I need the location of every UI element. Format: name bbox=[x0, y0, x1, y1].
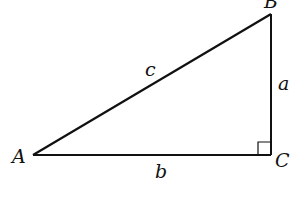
side-label-c: c bbox=[145, 58, 156, 80]
side-label-a: a bbox=[278, 72, 289, 94]
vertex-label-b: B bbox=[263, 0, 278, 12]
vertex-label-c: C bbox=[275, 149, 290, 171]
vertex-label-a: A bbox=[10, 145, 26, 167]
side-c-hypotenuse bbox=[33, 14, 271, 155]
right-angle-marker bbox=[258, 142, 271, 155]
side-label-b: b bbox=[155, 160, 167, 182]
triangle-diagram: A B C c a b bbox=[0, 0, 292, 202]
